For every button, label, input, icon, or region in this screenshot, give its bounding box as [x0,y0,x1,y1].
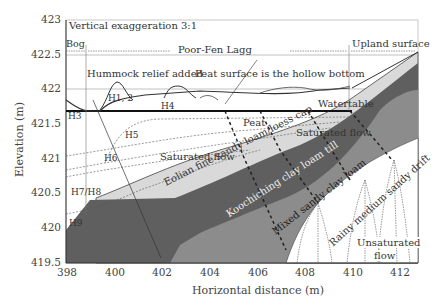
y-tick: 421.5 [31,117,61,129]
zone-label-upland-surface: Upland surface [352,38,430,49]
horizon-label: H4 [161,101,175,111]
x-axis-title: Horizontal distance (m) [192,284,324,297]
y-tick: 420 [41,221,61,233]
hummock-label: Hummock relief added [87,68,203,79]
y-tick: 422.5 [31,48,61,60]
horizon-label: H1, 2 [108,93,133,103]
x-tick: 406 [248,266,268,278]
x-tick: 410 [343,266,363,278]
y-tick: 423 [41,13,61,25]
y-axis-title: Elevation (m) [13,102,26,177]
horizon-label: H3 [68,111,82,121]
saturated-flow-label: Saturated flow [296,127,371,138]
horizon-label: H5 [125,130,139,140]
peat-surface-label: Peat surface is the hollow bottom [195,68,365,79]
x-tick: 402 [152,266,172,278]
horizon-label: H7/H8 [71,187,101,197]
watertable-label: Watertable [318,98,374,109]
x-tick: 398 [57,266,77,278]
y-tick: 421 [41,152,61,164]
zone-label-poor-fen-lagg: Poor-Fen Lagg [178,44,252,55]
koochiching-layer-label: Koochiching clay loam till [224,139,340,219]
zone-label-bog: Bog [66,38,85,49]
x-tick: 408 [295,266,315,278]
x-tick: 400 [105,266,125,278]
unsaturated-flow-label: flow [374,250,395,261]
x-tick: 412 [390,266,410,278]
horizon-label: H6 [104,153,118,163]
vertical-exaggeration-label: Vertical exaggeration 3:1 [69,20,197,31]
horizon-label: H9 [69,218,83,228]
x-tick: 404 [200,266,220,278]
y-tick: 420.5 [31,186,61,198]
y-tick: 422 [41,82,61,94]
unsaturated-flow-label: Unsaturated [357,237,421,248]
rainy-layer-label: Rainy medium sandy drift [327,152,432,248]
